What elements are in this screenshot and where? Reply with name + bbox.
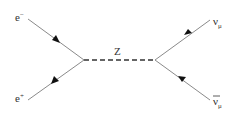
feynman-diagram: e− e+ Z νμ νμ — [0, 0, 235, 114]
diagram-svg: e− e+ Z νμ νμ — [0, 0, 235, 114]
arrow-icon — [51, 76, 59, 84]
positron-label: e+ — [15, 92, 24, 104]
positron-line — [28, 60, 84, 100]
muon-antineutrino-label: νμ — [213, 95, 222, 110]
arrow-icon — [52, 35, 60, 43]
muon-antineutrino-line — [155, 60, 210, 100]
muon-neutrino-line — [155, 20, 210, 60]
electron-line — [28, 19, 84, 60]
svg-text:νμ: νμ — [213, 95, 222, 110]
z-boson-label: Z — [114, 45, 121, 57]
muon-neutrino-label: νμ — [213, 15, 222, 30]
electron-label: e− — [15, 11, 24, 23]
